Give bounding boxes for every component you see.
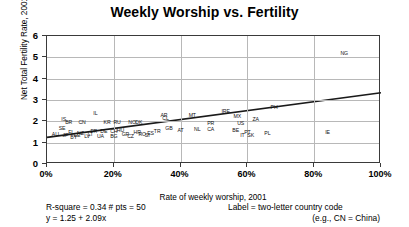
data-point-label: IS (61, 118, 66, 123)
x-tick-label: 80% (293, 169, 333, 179)
y-gridline (47, 100, 379, 101)
y-gridline (47, 79, 379, 80)
x-tick-label: 20% (93, 169, 133, 179)
data-point-label: NL (194, 127, 200, 132)
y-tick-label: 1 (24, 137, 38, 148)
y-gridline (47, 143, 379, 144)
data-point-label: IRE (222, 109, 230, 114)
data-point-label: CN (78, 120, 85, 125)
data-point-label: SI (145, 133, 150, 138)
x-tick-label: 40% (160, 169, 200, 179)
data-point-label: KR (104, 121, 111, 126)
data-point-label: MT (189, 113, 196, 118)
footer-stats: R-square = 0.34 # pts = 50 (46, 202, 146, 212)
y-tick (42, 99, 46, 100)
y-tick (42, 78, 46, 79)
y-tick-label: 2 (24, 115, 38, 126)
y-gridline (47, 57, 379, 58)
data-point-label: ZA (253, 118, 259, 123)
data-point-label: NG (340, 52, 348, 57)
chart-title: Weekly Worship vs. Fertility (0, 4, 409, 20)
data-point-label: IE (325, 130, 330, 135)
data-point-label: BE (232, 128, 239, 133)
data-point-label: JP (62, 133, 68, 138)
data-point-label: PL (264, 131, 270, 136)
x-tick (246, 163, 247, 167)
chart-figure: Weekly Worship vs. Fertility Net Total F… (0, 0, 409, 227)
y-tick (42, 120, 46, 121)
data-point-label: BG (110, 134, 117, 139)
y-tick-label: 5 (24, 51, 38, 62)
y-tick-label: 0 (24, 158, 38, 169)
data-point-label: AU (52, 132, 59, 137)
x-tick (113, 163, 114, 167)
data-point-label: IL (93, 112, 97, 117)
data-point-label: GR (122, 132, 130, 137)
footer-legend-note: Label = two-letter country code (228, 202, 343, 212)
plot-area: NGPHIEILMXIREZAUSARCLMTPRPLNLCABEPTITSKG… (46, 35, 380, 163)
y-tick (42, 163, 46, 164)
y-tick (42, 56, 46, 57)
data-point-label: PH (271, 105, 278, 110)
data-point-label: MX (234, 114, 242, 119)
data-point-label: HR (134, 130, 141, 135)
y-tick-label: 4 (24, 73, 38, 84)
data-point-label: CA (207, 128, 214, 133)
data-point-label: TR (154, 129, 161, 134)
x-tick (180, 163, 181, 167)
data-point-label: UA (97, 135, 104, 140)
x-tick (380, 163, 381, 167)
x-tick (313, 163, 314, 167)
x-axis-title: Rate of weekly worship, 2001 (46, 193, 380, 202)
y-tick-label: 3 (24, 94, 38, 105)
data-point-label: AT (178, 129, 184, 134)
data-point-label: RU (113, 121, 120, 126)
data-point-label: CL (162, 117, 168, 122)
data-point-label: LT (88, 133, 93, 138)
data-point-label: SK (247, 133, 254, 138)
data-point-label: US (237, 121, 244, 126)
footer-equation: y = 1.25 + 2.09x (46, 213, 106, 223)
y-tick (42, 142, 46, 143)
x-tick-label: 60% (226, 169, 266, 179)
x-tick-label: 100% (360, 169, 400, 179)
data-point-label: DK (135, 121, 142, 126)
footer-legend-example: (e.g., CN = China) (228, 213, 380, 223)
y-tick-label: 6 (24, 30, 38, 41)
data-point-label: GB (165, 127, 172, 132)
x-tick-label: 0% (26, 169, 66, 179)
y-tick (42, 35, 46, 36)
data-point-label: BY (70, 135, 77, 140)
x-tick (46, 163, 47, 167)
data-point-label: IT (240, 133, 244, 138)
